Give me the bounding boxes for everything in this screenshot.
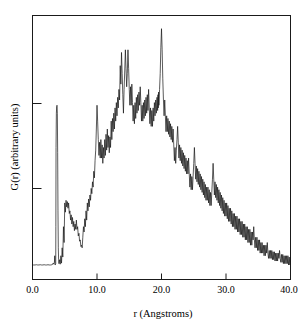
chart-background [0,0,308,330]
pdf-line-chart: 0.0 10.0 20.0 30.0 40.0 r (Angstroms) G(… [0,0,308,330]
x-tick-label-0: 0.0 [26,284,39,295]
x-tick-label-20: 20.0 [153,284,171,295]
y-axis-title: G(r) (arbitrary units) [9,103,21,190]
x-tick-label-10: 10.0 [88,284,106,295]
x-tick-label-30: 30.0 [217,284,235,295]
figure-container: 0.0 10.0 20.0 30.0 40.0 r (Angstroms) G(… [0,0,308,330]
x-axis-title: r (Angstroms) [133,308,193,320]
x-tick-label-40: 40.0 [280,284,298,295]
